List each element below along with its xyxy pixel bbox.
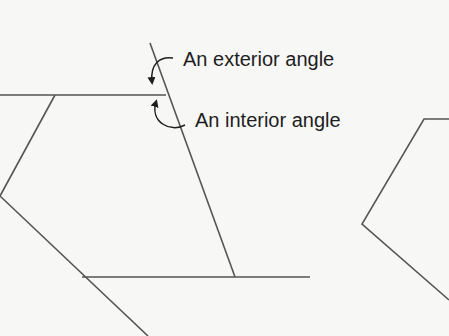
interior-angle-label: An interior angle bbox=[195, 110, 341, 130]
left-polygon bbox=[0, 43, 310, 336]
left-lower-side bbox=[0, 196, 148, 336]
extended-side bbox=[150, 43, 235, 277]
right-polygon bbox=[362, 119, 449, 300]
exterior-angle-label: An exterior angle bbox=[183, 49, 334, 69]
interior-angle-arrow bbox=[155, 102, 185, 128]
left-upper-side bbox=[0, 95, 55, 196]
diagram-canvas: An exterior angle An interior angle bbox=[0, 0, 449, 336]
